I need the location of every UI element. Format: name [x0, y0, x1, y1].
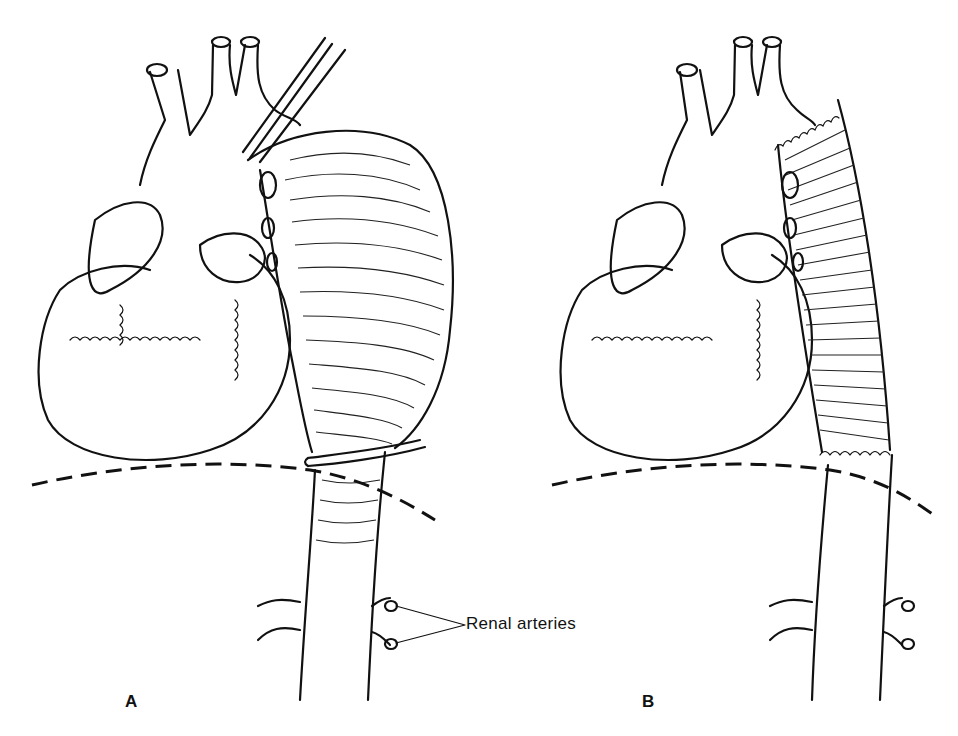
left-atrium-b: [611, 202, 685, 293]
panel-label-b: B: [642, 692, 654, 712]
descending-aorta-b: [812, 455, 892, 700]
heart-a: [39, 255, 290, 460]
aortic-arch-b: [662, 45, 815, 185]
proximal-anastomosis-b: [775, 117, 839, 150]
heart-b: [561, 255, 812, 460]
brachiocephalic-artery-b: [677, 64, 697, 76]
vessel-ostium-b3: [793, 253, 803, 271]
renal-arteries-callout-lines: [396, 606, 465, 643]
aneurysm-hatching-a: [285, 153, 444, 444]
left-atrium-a: [89, 202, 163, 293]
diaphragm-line-b: [552, 464, 938, 518]
diaphragm-line-a: [32, 464, 435, 520]
distal-clamp-a: [305, 440, 425, 466]
left-subclavian-artery-b: [763, 37, 781, 47]
panel-b-illustration: [552, 37, 938, 700]
vessel-ostium-b1: [782, 172, 798, 198]
distal-anastomosis-b: [820, 452, 890, 456]
tubular-graft-b: [778, 100, 890, 452]
left-carotid-artery-b: [734, 37, 752, 47]
descending-aorta-a: [300, 452, 385, 700]
aneurysm-sac-a: [248, 131, 453, 452]
vessel-ostium-b2: [784, 218, 796, 238]
panel-a-illustration: [32, 37, 465, 700]
panel-label-a: A: [125, 692, 137, 712]
left-carotid-artery-a: [212, 37, 230, 47]
renal-arteries-label: Renal arteries: [466, 614, 576, 634]
left-subclavian-artery-a: [241, 37, 259, 47]
brachiocephalic-artery-a: [147, 64, 167, 76]
